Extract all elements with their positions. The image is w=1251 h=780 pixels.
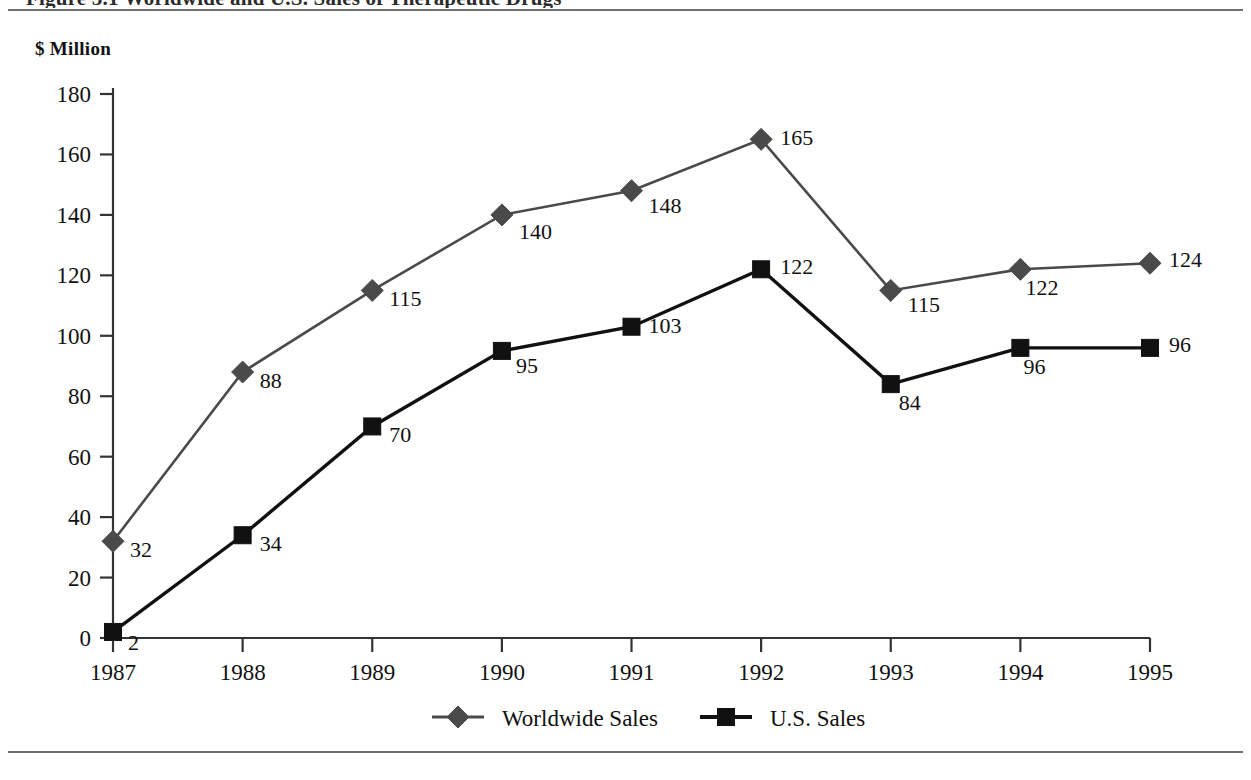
x-axis-tick-label: 1992 [738, 660, 784, 685]
data-point-marker [491, 204, 513, 226]
x-axis-tick-label: 1988 [220, 660, 266, 685]
data-point-label: 88 [260, 368, 282, 393]
data-point-marker [753, 261, 770, 278]
data-point-marker [1139, 252, 1161, 274]
data-point-label: 122 [1025, 275, 1058, 300]
data-point-label: 96 [1169, 332, 1191, 357]
x-axis-tick-label: 1987 [90, 660, 136, 685]
x-axis-tick-label: 1994 [997, 660, 1044, 685]
data-point-marker [493, 342, 510, 359]
data-point-marker [623, 318, 640, 335]
chart-canvas: 0204060801001201401601801987198819891990… [0, 0, 1251, 780]
y-axis-tick-label: 20 [68, 566, 91, 591]
y-axis-tick-label: 40 [68, 505, 91, 530]
y-axis-tick-label: 60 [68, 445, 91, 470]
data-point-label: 165 [780, 125, 813, 150]
data-point-label: 34 [260, 531, 282, 556]
data-point-label: 84 [899, 390, 921, 415]
y-axis-tick-label: 0 [80, 626, 92, 651]
x-axis-tick-label: 1991 [609, 660, 655, 685]
data-point-label: 148 [649, 193, 682, 218]
y-axis-tick-label: 120 [57, 263, 92, 288]
data-point-label: 115 [908, 292, 940, 317]
legend-label-2: U.S. Sales [770, 706, 865, 731]
chart-legend: Worldwide SalesU.S. Sales [432, 706, 865, 731]
data-point-marker [105, 623, 122, 640]
x-axis-tick-label: 1993 [868, 660, 914, 685]
data-point-label: 115 [389, 286, 421, 311]
bottom-divider-rule [8, 751, 1243, 753]
legend-marker-square [718, 709, 735, 726]
data-point-marker [234, 527, 251, 544]
data-point-marker [102, 530, 124, 552]
data-point-label: 124 [1169, 247, 1202, 272]
line-chart: 0204060801001201401601801987198819891990… [0, 0, 1251, 780]
legend-label-1: Worldwide Sales [502, 706, 658, 731]
series-worldwide-sales: 3288115140148165115122124 [102, 125, 1202, 562]
data-point-marker [621, 180, 643, 202]
y-axis-tick-label: 80 [68, 384, 91, 409]
data-point-marker [364, 418, 381, 435]
x-axis-tick-label: 1995 [1127, 660, 1173, 685]
y-axis-tick-label: 140 [57, 203, 92, 228]
data-point-label: 2 [128, 630, 139, 655]
legend-marker-diamond [447, 706, 469, 728]
data-point-label: 122 [780, 254, 813, 279]
data-point-label: 140 [519, 219, 552, 244]
data-point-marker [361, 279, 383, 301]
data-point-marker [1142, 339, 1159, 356]
y-axis-tick-label: 100 [57, 324, 92, 349]
x-axis-tick-label: 1990 [479, 660, 525, 685]
data-point-label: 96 [1023, 354, 1045, 379]
data-point-label: 95 [516, 353, 538, 378]
data-point-marker [232, 361, 254, 383]
series-u-s-sales: 2347095103122849696 [105, 254, 1192, 655]
data-point-label: 70 [389, 422, 411, 447]
y-axis-tick-label: 180 [57, 82, 92, 107]
data-point-label: 32 [130, 537, 152, 562]
x-axis-tick-label: 1989 [349, 660, 395, 685]
data-point-label: 103 [649, 313, 682, 338]
data-point-marker [882, 376, 899, 393]
y-axis-tick-label: 160 [57, 142, 92, 167]
